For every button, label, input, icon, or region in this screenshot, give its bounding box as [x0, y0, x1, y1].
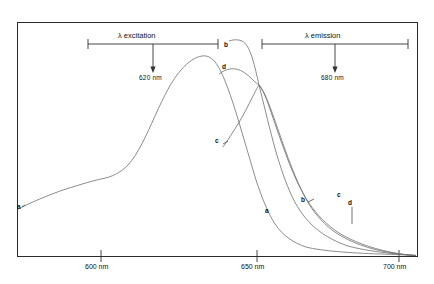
curve-label-d-right: d [348, 199, 352, 206]
curve-d [219, 69, 416, 256]
bracket-label-emission: λ emission [305, 31, 340, 40]
curve-label-d-mid: d [222, 63, 226, 70]
xtick-label-600nm: 600 nm [85, 263, 108, 270]
label-leaders [22, 141, 352, 224]
curve-label-c-right: c [337, 191, 341, 198]
curve-label-b-right: b [301, 196, 305, 203]
curve-c [223, 85, 416, 256]
xtick-label-700nm: 700 nm [383, 263, 406, 270]
bracket-label-excitation: λ excitation [118, 31, 156, 40]
bracket-excitation [88, 39, 218, 73]
curve-label-a-right: a [265, 207, 269, 214]
bracket-emission [262, 39, 408, 73]
arrow-label-680nm: 680 nm [321, 74, 344, 81]
curve-label-a-left: a [17, 203, 21, 210]
arrow-label-620nm: 620 nm [139, 74, 162, 81]
curve-label-c-mid: c [215, 137, 219, 144]
curve-label-b-top: b [224, 41, 228, 48]
curve-b [229, 40, 416, 256]
xtick-label-650nm: 650 nm [241, 263, 264, 270]
curve-a [18, 56, 416, 256]
